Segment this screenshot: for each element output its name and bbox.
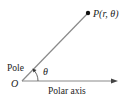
angle-label: θ <box>43 66 48 77</box>
point-label: P(r, θ) <box>92 8 119 20</box>
polar-axis-arrowhead-icon <box>111 79 118 84</box>
angle-arrowhead-icon <box>33 69 37 73</box>
radius-line <box>22 13 88 81</box>
origin-label: O <box>11 78 18 89</box>
pole-label: Pole <box>7 63 24 73</box>
polar-coordinates-diagram: P(r, θ) Pole O θ Polar axis <box>0 0 131 101</box>
point-p <box>86 11 90 15</box>
polar-axis-label: Polar axis <box>48 86 86 96</box>
